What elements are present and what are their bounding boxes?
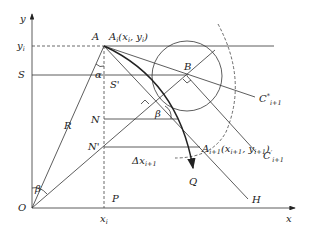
line-a-to-c-star [104, 46, 255, 97]
beta-mid-label: β [154, 108, 161, 119]
line-a-to-h [104, 46, 248, 199]
y-axis-label: y [19, 13, 26, 24]
origin-label: O [18, 202, 26, 213]
a-next-label: Ai+1(xi+1, yi+1) [201, 143, 270, 156]
h-label: H [251, 194, 261, 205]
s-label: S [18, 69, 25, 80]
dashed-arc [175, 24, 235, 158]
a-i-label: Ai(xi, yi) [108, 31, 148, 44]
geometry-diagram: y x O yi S R A Ai(xi, yi) α S' B N N' β … [0, 0, 309, 240]
a-label: A [91, 31, 99, 42]
n-prime-label: N' [87, 141, 100, 152]
right-angle-mark-mid [141, 100, 149, 104]
line-o-to-b [32, 50, 215, 208]
s-prime-label: S' [110, 79, 120, 90]
q-label: Q [189, 176, 197, 187]
line-b-to-c-prime [187, 76, 256, 152]
x-axis-label: x [286, 213, 292, 224]
alpha-label: α [95, 69, 102, 80]
beta-origin-label: β [34, 183, 41, 194]
y-i-label: yi [16, 40, 25, 53]
b-label: B [183, 61, 191, 72]
alpha-arc [96, 64, 104, 67]
delta-x-label: Δxi+1 [131, 155, 157, 168]
p-label: P [111, 193, 119, 204]
x-i-label: xi [100, 213, 108, 226]
c-star-label: C*i+1 [259, 92, 282, 107]
r-label: R [63, 120, 72, 131]
beta-arc-mid [165, 106, 171, 119]
n-label: N [90, 114, 101, 125]
c-prime-label: C′i+1 [263, 149, 284, 164]
